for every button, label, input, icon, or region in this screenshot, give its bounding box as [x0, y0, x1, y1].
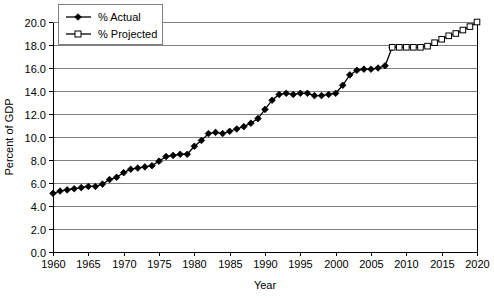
y-tick-label-2.0: 2.0: [31, 224, 46, 236]
data-point-marker: [432, 40, 438, 46]
data-point-marker: [354, 67, 361, 74]
y-tick-label-18.0: 18.0: [25, 40, 46, 52]
data-point-marker: [311, 92, 318, 99]
data-point-marker: [219, 130, 226, 137]
y-tick-label-8.0: 8.0: [31, 155, 46, 167]
x-tick-label-1965: 1965: [76, 258, 100, 270]
chart-container: 0.02.04.06.08.010.012.014.016.018.020.01…: [0, 0, 494, 301]
x-axis-title: Year: [254, 279, 277, 291]
data-point-marker: [425, 43, 431, 49]
data-point-marker: [85, 183, 92, 190]
data-point-marker: [368, 66, 375, 73]
gdp-percent-line-chart: 0.02.04.06.08.010.012.014.016.018.020.01…: [0, 0, 494, 301]
x-tick-label-1960: 1960: [41, 258, 65, 270]
series-line: [53, 47, 392, 193]
data-point-marker: [460, 27, 466, 33]
y-tick-label-12.0: 12.0: [25, 109, 46, 121]
y-axis-title: Percent of GDP: [3, 98, 15, 175]
data-point-marker: [99, 181, 106, 188]
data-point-marker: [149, 162, 156, 169]
x-tick-label-2005: 2005: [359, 258, 383, 270]
data-point-marker: [71, 185, 78, 192]
data-point-marker: [50, 190, 57, 197]
data-point-marker: [120, 169, 127, 176]
data-point-marker: [411, 45, 417, 51]
y-tick-label-0.0: 0.0: [31, 247, 46, 259]
data-point-marker: [127, 166, 134, 173]
data-point-marker: [75, 31, 81, 37]
x-axis-ticks: 1960196519701975198019851990199520002005…: [41, 252, 489, 270]
data-point-marker: [170, 152, 177, 159]
data-point-marker: [318, 92, 325, 99]
data-point-marker: [297, 90, 304, 97]
x-tick-label-1985: 1985: [218, 258, 242, 270]
y-tick-label-10.0: 10.0: [25, 132, 46, 144]
data-point-marker: [283, 90, 290, 97]
x-tick-label-1980: 1980: [182, 258, 206, 270]
data-point-marker: [92, 183, 99, 190]
data-point-marker: [290, 91, 297, 98]
data-point-marker: [248, 120, 255, 127]
x-tick-label-1990: 1990: [253, 258, 277, 270]
y-tick-label-4.0: 4.0: [31, 201, 46, 213]
data-point-marker: [389, 45, 395, 51]
x-tick-label-1975: 1975: [147, 258, 171, 270]
data-point-marker: [135, 165, 142, 172]
data-point-marker: [304, 90, 311, 97]
data-point-marker: [64, 187, 71, 194]
series-actual: [50, 44, 396, 197]
legend-label-projected: % Projected: [98, 28, 157, 40]
y-tick-label-14.0: 14.0: [25, 86, 46, 98]
x-tick-label-1970: 1970: [112, 258, 136, 270]
data-point-marker: [78, 184, 85, 191]
data-point-marker: [212, 129, 219, 136]
data-point-marker: [418, 45, 424, 51]
x-tick-label-2015: 2015: [430, 258, 454, 270]
data-point-marker: [404, 45, 410, 51]
data-point-marker: [142, 164, 149, 171]
data-point-marker: [163, 153, 170, 160]
data-point-marker: [156, 158, 163, 165]
data-point-marker: [233, 126, 240, 133]
y-axis-ticks: 0.02.04.06.08.010.012.014.016.018.020.0: [25, 17, 53, 259]
data-point-marker: [467, 24, 473, 30]
data-point-marker: [453, 31, 459, 37]
data-point-marker: [446, 33, 452, 39]
data-point-marker: [474, 19, 480, 25]
data-point-marker: [439, 36, 445, 42]
data-point-marker: [177, 151, 184, 158]
y-tick-label-16.0: 16.0: [25, 63, 46, 75]
legend-label-actual: % Actual: [98, 11, 141, 23]
data-point-marker: [106, 176, 113, 183]
data-point-marker: [241, 123, 248, 130]
x-tick-label-2020: 2020: [465, 258, 489, 270]
x-tick-label-2000: 2000: [324, 258, 348, 270]
x-tick-label-1995: 1995: [288, 258, 312, 270]
data-point-marker: [57, 188, 64, 195]
y-tick-label-20.0: 20.0: [25, 17, 46, 29]
chart-legend: % Actual% Projected: [59, 5, 163, 45]
data-point-marker: [361, 66, 368, 73]
data-point-marker: [375, 65, 382, 72]
data-point-marker: [226, 128, 233, 135]
data-point-marker: [325, 91, 332, 98]
data-point-marker: [396, 45, 402, 51]
x-tick-label-2010: 2010: [394, 258, 418, 270]
gridlines: [53, 23, 477, 230]
data-point-marker: [113, 174, 120, 181]
y-tick-label-6.0: 6.0: [31, 178, 46, 190]
